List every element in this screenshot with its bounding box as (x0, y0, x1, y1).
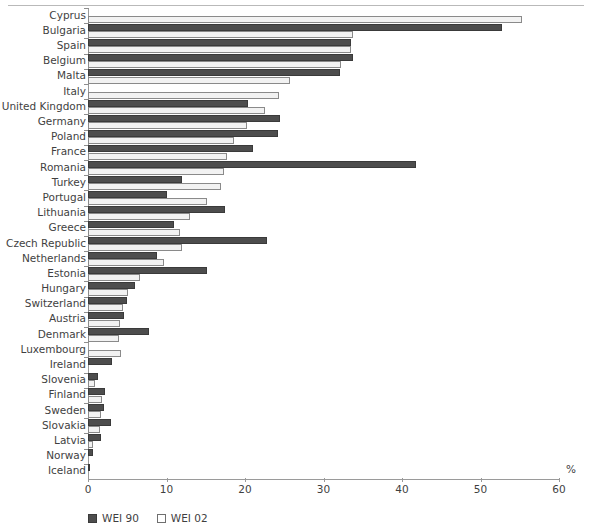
x-axis-tick-label: 10 (160, 483, 173, 495)
y-axis-category-label: Italy (63, 86, 86, 97)
bar-wei90 (88, 130, 278, 137)
bar-wei02 (88, 335, 119, 342)
bar-chart: CyprusBulgariaSpainBelgiumMaltaItalyUnit… (0, 0, 592, 531)
y-axis-category-label: Malta (57, 70, 86, 81)
y-axis-category-label: Cyprus (49, 10, 86, 21)
bar-wei02 (88, 153, 227, 160)
bar-wei02 (88, 61, 341, 68)
bar-wei90 (88, 115, 280, 122)
bar-wei90 (88, 176, 182, 183)
x-axis-tick-label: 20 (238, 483, 251, 495)
bar-wei90 (88, 297, 127, 304)
x-axis-tick-label: 30 (317, 483, 330, 495)
y-axis-category-label: Denmark (38, 329, 86, 340)
y-axis-category-label: Norway (46, 450, 86, 461)
bar-wei02 (88, 244, 182, 251)
bar-wei02 (88, 411, 101, 418)
x-axis-tick-label: 0 (85, 483, 92, 495)
bar-wei90 (88, 54, 353, 61)
y-axis-category-label: Netherlands (22, 253, 86, 264)
bar-wei02 (88, 426, 100, 433)
legend-label-wei02: WEI 02 (171, 512, 208, 524)
y-axis-category-label: Estonia (47, 268, 86, 279)
y-axis-category-label: United Kingdom (2, 101, 86, 112)
y-axis-category-label: Iceland (48, 465, 86, 476)
y-axis-category-label: Turkey (52, 177, 86, 188)
y-axis-category-label: Switzerland (25, 298, 86, 309)
bar-wei90 (88, 221, 174, 228)
bar-wei90 (88, 69, 340, 76)
legend-label-wei90: WEI 90 (102, 512, 139, 524)
bar-wei02 (88, 229, 180, 236)
legend-entry-wei90: WEI 90 (88, 512, 139, 524)
legend-swatch-icon-wei90 (88, 514, 97, 523)
y-axis-category-label: Czech Republic (6, 238, 86, 249)
plot-area: CyprusBulgariaSpainBelgiumMaltaItalyUnit… (0, 0, 592, 531)
bar-wei90 (88, 449, 93, 456)
y-axis-category-label: Hungary (41, 283, 86, 294)
bar-wei02 (88, 77, 290, 84)
y-axis-category-label: Greece (49, 222, 86, 233)
x-axis-tick (324, 478, 325, 482)
bar-wei90 (88, 252, 157, 259)
bar-wei02 (88, 441, 93, 448)
bar-wei90 (88, 191, 167, 198)
bar-wei02 (88, 320, 120, 327)
bar-wei90 (88, 24, 502, 31)
bar-wei90 (88, 373, 98, 380)
y-axis-category-label: Portugal (43, 192, 87, 203)
bar-wei90 (88, 267, 207, 274)
bar-wei02 (88, 168, 224, 175)
bar-wei02 (88, 16, 522, 23)
x-axis-tick-label: 50 (474, 483, 487, 495)
bar-wei90 (88, 39, 351, 46)
bar-wei02 (88, 107, 265, 114)
bar-wei90 (88, 419, 111, 426)
x-axis-tick-label: 60 (552, 483, 565, 495)
bar-wei90 (88, 388, 105, 395)
y-axis-category-label: Sweden (45, 405, 87, 416)
bar-wei02 (88, 350, 121, 357)
y-axis-category-label: Austria (49, 313, 86, 324)
y-axis-category-label: Poland (51, 131, 86, 142)
x-axis-unit-label: % (566, 463, 576, 475)
x-axis-tick-label: 40 (395, 483, 408, 495)
bar-wei02 (88, 259, 164, 266)
bar-wei02 (88, 137, 234, 144)
bar-wei90 (88, 237, 267, 244)
x-axis-tick (481, 478, 482, 482)
bar-wei02 (88, 183, 221, 190)
y-axis-category-label: Finland (48, 389, 86, 400)
bar-wei02 (88, 122, 247, 129)
bar-wei02 (88, 213, 190, 220)
y-axis-category-label: Germany (38, 116, 86, 127)
bar-wei90 (88, 434, 101, 441)
legend-entry-wei02: WEI 02 (157, 512, 208, 524)
bar-wei02 (88, 289, 128, 296)
y-axis-category-label: Spain (57, 40, 86, 51)
x-axis-tick (559, 478, 560, 482)
bar-wei90 (88, 282, 135, 289)
y-axis-category-label: Lithuania (37, 207, 86, 218)
chart-legend: WEI 90 WEI 02 (88, 512, 208, 524)
bar-wei90 (88, 206, 225, 213)
legend-swatch-icon-wei02 (157, 514, 166, 523)
bar-wei90 (88, 464, 90, 471)
y-axis-category-label: Slovenia (41, 374, 86, 385)
y-axis-category-label: Slovakia (42, 420, 86, 431)
bar-wei02 (88, 31, 353, 38)
bar-wei02 (88, 92, 279, 99)
y-axis-category-label: Latvia (54, 435, 86, 446)
y-axis-category-label: Luxembourg (21, 344, 86, 355)
y-axis-category-label: Belgium (43, 55, 86, 66)
bar-wei90 (88, 358, 112, 365)
bar-wei90 (88, 161, 416, 168)
bar-wei02 (88, 46, 351, 53)
y-axis-category-label: Ireland (50, 359, 86, 370)
bar-wei90 (88, 328, 149, 335)
bar-wei02 (88, 304, 123, 311)
x-axis-tick (245, 478, 246, 482)
y-axis-category-label: France (51, 146, 86, 157)
y-axis-category-label: Romania (40, 162, 86, 173)
x-axis-tick (167, 478, 168, 482)
